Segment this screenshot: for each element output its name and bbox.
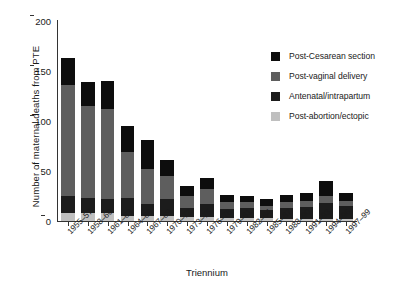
legend-swatch-icon <box>271 72 280 81</box>
bar-segment <box>319 196 333 203</box>
bar-segment <box>121 152 135 198</box>
legend-item: Antenatal/intrapartum <box>271 86 416 106</box>
bar-segment <box>200 189 214 204</box>
y-axis-title: Number of maternal deaths from PTE <box>30 12 41 242</box>
legend-swatch-icon <box>271 92 280 101</box>
chart-figure: Number of maternal deaths from PTE Trien… <box>0 0 417 299</box>
bar-segment <box>319 181 333 196</box>
bar-segment <box>280 195 294 202</box>
bar-segment <box>61 85 75 196</box>
bar-segment <box>300 193 314 201</box>
bar-segment <box>339 193 353 201</box>
bar-segment <box>61 196 75 213</box>
y-axis-tick-label: 200 <box>35 16 58 27</box>
bar-segment <box>101 81 115 109</box>
y-axis-tick-mark <box>30 15 34 16</box>
bar-segment <box>61 58 75 85</box>
y-axis-tick-label: 150 <box>35 66 58 77</box>
bar-stack <box>61 58 75 221</box>
bar-segment <box>101 109 115 199</box>
y-axis-tick-label: 50 <box>40 166 58 177</box>
bar-stack <box>81 82 95 221</box>
bar-segment <box>141 140 155 169</box>
legend-item: Post-abortion/ectopic <box>271 106 416 126</box>
bar-segment <box>160 176 174 199</box>
legend-label: Antenatal/intrapartum <box>289 91 370 101</box>
bar-segment <box>81 106 95 198</box>
y-axis-tick-mark <box>30 65 34 66</box>
legend-item: Post-vaginal delivery <box>271 66 416 86</box>
y-axis-tick-label: 100 <box>35 116 58 127</box>
bar-segment <box>180 186 194 196</box>
legend-swatch-icon <box>271 52 280 61</box>
bar-segment <box>121 126 135 152</box>
bar-stack <box>101 81 115 221</box>
bar-segment <box>141 169 155 204</box>
bar-segment <box>260 199 274 206</box>
bar-segment <box>160 160 174 176</box>
y-axis-tick-label: 0 <box>46 216 58 227</box>
bar-segment <box>200 178 214 189</box>
legend-label: Post-vaginal delivery <box>289 71 367 81</box>
legend-label: Post-Cesarean section <box>289 51 375 61</box>
legend-item: Post-Cesarean section <box>271 46 416 66</box>
bar-segment <box>220 195 234 202</box>
x-axis-title: Triennium <box>58 267 356 278</box>
chart-legend: Post-Cesarean sectionPost-vaginal delive… <box>271 46 416 126</box>
y-axis-tick-mark <box>30 115 34 116</box>
legend-label: Post-abortion/ectopic <box>289 111 369 121</box>
bar-segment <box>81 82 95 106</box>
y-axis-tick-mark <box>35 165 39 166</box>
y-axis-tick-mark <box>41 215 45 216</box>
legend-swatch-icon <box>271 112 280 121</box>
